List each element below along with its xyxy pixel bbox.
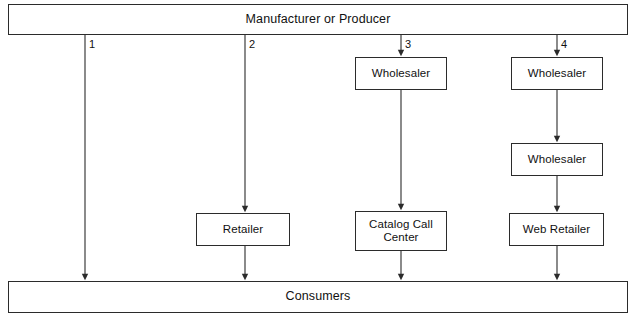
channel-number-2: 2: [249, 39, 255, 50]
node-catalog-call-center-label-line1: Catalog Call: [369, 218, 433, 232]
manufacturer-or-producer-label: Manufacturer or Producer: [246, 13, 391, 27]
node-wholesaler-channel4-top: Wholesaler: [511, 57, 603, 90]
node-wholesaler-channel4-bottom-label: Wholesaler: [528, 153, 587, 167]
node-wholesaler-channel4-bottom: Wholesaler: [511, 143, 603, 176]
manufacturer-or-producer-bar: Manufacturer or Producer: [8, 4, 628, 35]
channel-number-1: 1: [89, 39, 95, 50]
node-web-retailer: Web Retailer: [509, 213, 604, 246]
node-wholesaler-channel4-top-label: Wholesaler: [528, 67, 587, 81]
consumers-bar: Consumers: [8, 281, 628, 313]
node-web-retailer-label: Web Retailer: [523, 223, 590, 237]
node-retailer: Retailer: [196, 213, 290, 246]
distribution-channel-diagram: Manufacturer or Producer 1 2 3 4 Wholesa…: [0, 0, 638, 319]
node-wholesaler-channel3-label: Wholesaler: [372, 67, 431, 81]
channel-number-4: 4: [561, 39, 567, 50]
node-catalog-call-center: Catalog Call Center: [355, 211, 447, 251]
node-catalog-call-center-label-line2: Center: [383, 231, 418, 245]
node-retailer-label: Retailer: [223, 223, 263, 237]
node-wholesaler-channel3: Wholesaler: [355, 57, 447, 90]
consumers-label: Consumers: [286, 290, 351, 304]
channel-number-3: 3: [405, 39, 411, 50]
